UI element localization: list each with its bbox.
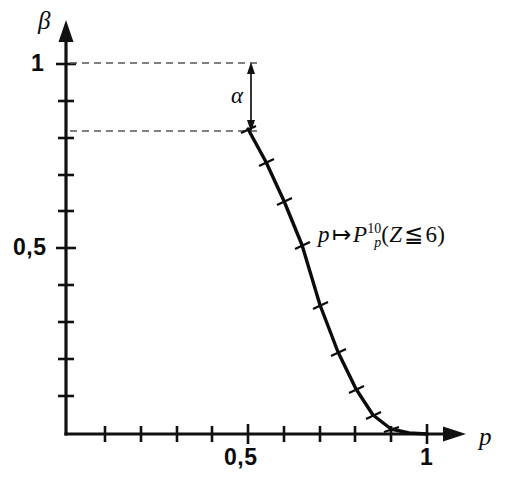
curve-function-label: p↦P10p(Z≦6) [318, 222, 445, 250]
formula-superscript: 10 [367, 221, 381, 236]
x-axis-label: p [479, 424, 492, 449]
alpha-label: α [231, 84, 243, 107]
alpha-arrowhead-up [247, 62, 255, 74]
y-axis-label: β [38, 8, 50, 33]
formula-bound: 6 [425, 222, 437, 247]
y-tick-label-0.5: 0,5 [13, 236, 46, 259]
formula-relation-icon: ≦ [402, 222, 425, 247]
formula-mapsto-icon: ↦ [330, 222, 353, 247]
power-curve [248, 129, 427, 434]
formula-argument: p [318, 222, 330, 247]
power-function-chart: β 1 0,5 0,5 1 p α p↦P10p(Z≦6) [0, 0, 509, 488]
alpha-double-arrow [247, 62, 255, 132]
formula-variable: Z [389, 222, 402, 247]
formula-function-base: P [353, 222, 367, 247]
curve-markers [241, 126, 399, 432]
y-tick-label-1: 1 [31, 52, 44, 75]
x-tick-label-0.5: 0,5 [224, 446, 257, 469]
x-axis-arrowhead [443, 427, 466, 442]
formula-close-paren: ) [437, 222, 445, 247]
y-axis-group [56, 20, 76, 434]
x-tick-label-1: 1 [420, 446, 433, 469]
y-axis-arrowhead [59, 20, 74, 42]
power-curve-group [241, 126, 427, 434]
